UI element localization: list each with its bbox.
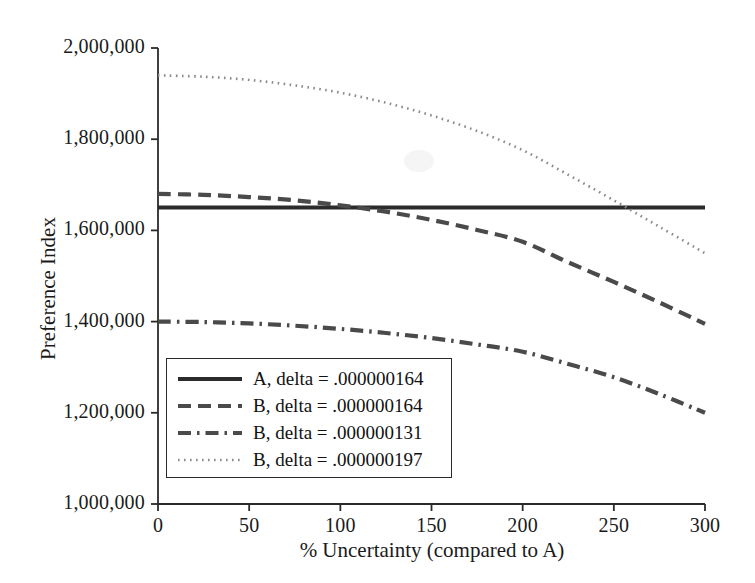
y-tick-label: 1,800,000 [0,126,145,149]
y-tick-label: 1,400,000 [0,309,145,332]
legend-line-swatch-icon [177,372,243,386]
chart-figure: 1,000,0001,200,0001,400,0001,600,0001,80… [0,0,755,583]
legend-item[interactable]: B, delta = .000000131 [167,419,451,446]
legend-item-label: B, delta = .000000197 [253,450,423,469]
legend-item-label: B, delta = .000000164 [253,396,423,415]
x-axis-title: % Uncertainty (compared to A) [158,538,706,563]
legend-item-label: A, delta = .000000164 [253,369,424,388]
legend-item[interactable]: B, delta = .000000164 [167,392,451,419]
legend-line-swatch-icon [177,426,243,440]
x-tick-label: 50 [209,514,289,537]
series-line-2 [158,194,705,324]
chart-legend: A, delta = .000000164B, delta = .0000001… [166,358,452,478]
y-tick-label: 1,600,000 [0,217,145,240]
y-tick-label: 2,000,000 [0,35,145,58]
x-tick-label: 250 [574,514,654,537]
legend-line-swatch-icon [177,453,243,467]
x-tick-label: 0 [118,514,198,537]
x-tick-label: 200 [483,514,563,537]
legend-item[interactable]: B, delta = .000000197 [167,446,451,473]
x-tick-label: 100 [300,514,380,537]
x-tick-label: 300 [665,514,745,537]
y-axis-title: Preference Index [36,179,61,399]
legend-item-label: B, delta = .000000131 [253,423,423,442]
y-tick-label: 1,000,000 [0,491,145,514]
legend-line-swatch-icon [177,399,243,413]
legend-item[interactable]: A, delta = .000000164 [167,365,451,392]
y-tick-label: 1,200,000 [0,400,145,423]
series-line-4 [158,75,705,253]
x-tick-label: 150 [392,514,472,537]
